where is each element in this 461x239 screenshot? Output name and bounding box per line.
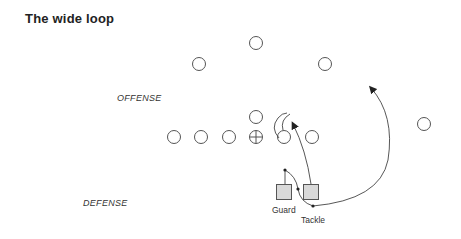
offense-player-icon xyxy=(250,37,263,50)
offense-player-icon xyxy=(306,131,319,144)
tackle-short-arrow xyxy=(293,124,311,184)
offense-player-icon xyxy=(195,131,208,144)
dot-icon xyxy=(311,204,314,207)
offense-player-icon xyxy=(418,118,431,131)
tackle-square-icon xyxy=(304,185,319,200)
curl-path-1 xyxy=(274,113,287,138)
offense-player-icon xyxy=(278,131,291,144)
offense-player-icon xyxy=(319,58,332,71)
offense-players xyxy=(168,37,431,144)
curl-path-2 xyxy=(282,114,290,130)
offense-player-icon xyxy=(250,111,263,124)
dot-icon xyxy=(283,168,286,171)
offense-player-icon xyxy=(193,58,206,71)
play-diagram xyxy=(0,0,461,239)
dot-icon xyxy=(296,187,299,190)
wide-loop-arrow xyxy=(313,88,390,206)
offense-player-icon xyxy=(223,131,236,144)
offense-player-icon xyxy=(168,131,181,144)
guard-square-icon xyxy=(277,185,292,200)
center-player-icon xyxy=(250,131,263,144)
